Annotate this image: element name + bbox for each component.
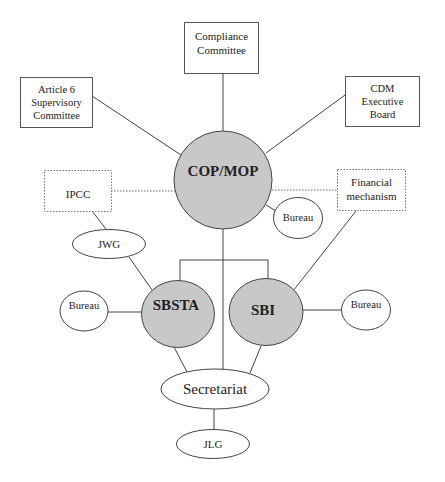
edge-copmop-bracket (180, 260, 268, 281)
edge-copmop-bureau (266, 205, 276, 211)
bureau-cop-label: Bureau (283, 212, 314, 223)
cdm-label-line1: CDM (371, 83, 396, 94)
ipcc-label: IPCC (66, 188, 90, 200)
node-cop-mop[interactable]: COP/MOP (174, 131, 272, 229)
financial-label-line1: Financial (351, 176, 392, 188)
edge-jwg-sbsta (129, 257, 152, 290)
node-bureau-sbsta[interactable]: Bureau (60, 291, 108, 331)
article6-label-line1: Article 6 (38, 84, 75, 95)
financial-label-line2: mechanism (346, 190, 397, 202)
compliance-label-line1: Compliance (195, 30, 248, 42)
organization-diagram: Compliance Committee Article 6 Superviso… (0, 0, 445, 482)
copmop-label: COP/MOP (188, 163, 259, 179)
node-sbi[interactable]: SBI (229, 279, 303, 346)
jwg-label: JWG (98, 238, 121, 250)
node-bureau-cop[interactable]: Bureau (274, 198, 323, 239)
node-bureau-sbi[interactable]: Bureau (342, 290, 391, 330)
sbi-label: SBI (251, 302, 275, 318)
bureau-sbsta-label: Bureau (69, 300, 100, 311)
edge-sbi-secretariat (250, 346, 261, 373)
bureau-sbi-label: Bureau (351, 299, 382, 310)
cdm-label-line2: Executive (362, 96, 404, 107)
secretariat-label: Secretariat (183, 381, 248, 397)
node-sbsta[interactable]: SBSTA (142, 281, 215, 348)
node-compliance-committee[interactable]: Compliance Committee (185, 23, 259, 74)
edge-sbsta-secretariat (174, 347, 187, 372)
node-jlg[interactable]: JLG (177, 430, 250, 459)
edge-cdm-copmop (266, 95, 345, 153)
sbsta-label: SBSTA (153, 297, 200, 313)
node-secretariat[interactable]: Secretariat (161, 369, 269, 409)
article6-label-line2: Supervisory (31, 97, 82, 108)
node-cdm-executive-board[interactable]: CDM Executive Board (346, 77, 420, 127)
edge-article6-copmop (92, 96, 181, 155)
edge-ipcc-jwg (92, 211, 106, 229)
jlg-label: JLG (204, 438, 223, 450)
node-financial-mechanism[interactable]: Financial mechanism (338, 170, 406, 211)
compliance-label-line2: Committee (197, 44, 246, 56)
node-ipcc[interactable]: IPCC (45, 171, 112, 212)
article6-label-line3: Committee (33, 110, 80, 121)
node-jwg[interactable]: JWG (73, 230, 146, 259)
cdm-label-line3: Board (370, 109, 396, 120)
node-article6-supervisory-committee[interactable]: Article 6 Supervisory Committee (21, 78, 93, 128)
